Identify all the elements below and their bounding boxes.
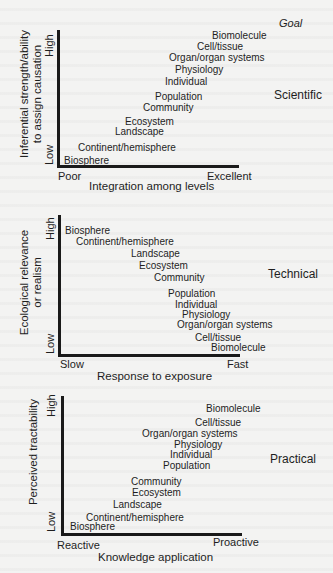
x-axis-title: Integration among levels — [89, 180, 214, 193]
y-axis-title-line1: Perceived tractability — [27, 392, 40, 512]
x-axis-high-label: Fast — [227, 358, 248, 370]
level-label: Biosphere — [65, 225, 110, 236]
level-label: Landscape — [131, 248, 180, 259]
level-label: Community — [131, 476, 182, 487]
level-label: Biomolecule — [211, 342, 265, 353]
level-label: Community — [154, 272, 205, 283]
level-label: Biosphere — [70, 521, 115, 532]
y-axis-title: Ecological relevance or realism — [18, 220, 44, 345]
y-axis-low-label: Low — [43, 145, 55, 165]
y-axis-line — [57, 30, 60, 168]
x-axis-title: Response to exposure — [97, 370, 212, 383]
level-label: Landscape — [115, 126, 164, 137]
goal-label: Scientific — [274, 88, 322, 102]
level-label: Ecosystem — [132, 487, 181, 498]
y-axis-low-label: Low — [44, 334, 56, 354]
level-label: Population — [155, 91, 202, 102]
level-label: Physiology — [175, 64, 223, 75]
y-axis-title-line1: Inferential strength/ability — [18, 30, 31, 158]
x-axis-low-label: Reactive — [57, 539, 100, 551]
level-label: Cell/tissue — [197, 41, 243, 52]
level-label: Organ/organ systems — [177, 319, 273, 330]
y-axis-line — [61, 396, 64, 536]
level-label: Biosphere — [64, 155, 109, 166]
y-axis-low-label: Low — [45, 512, 57, 532]
level-label: Population — [163, 460, 210, 471]
y-axis-line — [58, 215, 61, 357]
level-label: Continent/hemisphere — [76, 236, 174, 247]
x-axis-low-label: Slow — [60, 358, 84, 370]
y-axis-high-label: High — [45, 394, 57, 417]
level-label: Ecosystem — [139, 260, 188, 271]
y-axis-high-label: High — [43, 34, 55, 57]
level-label: Landscape — [113, 499, 162, 510]
x-axis-low-label: Poor — [58, 170, 81, 182]
x-axis-high-label: Proactive — [213, 536, 259, 548]
goal-column-header: Goal — [279, 17, 302, 29]
level-label: Continent/hemisphere — [78, 142, 176, 153]
y-axis-title-line1: Ecological relevance — [18, 220, 31, 345]
level-label: Biomolecule — [212, 30, 266, 41]
y-axis-title: Perceived tractability — [27, 392, 40, 512]
y-axis-high-label: High — [44, 217, 56, 240]
y-axis-title: Inferential strength/ability to assign c… — [18, 30, 44, 158]
level-label: Individual — [170, 449, 212, 460]
level-label: Population — [168, 288, 215, 299]
goal-label: Technical — [268, 267, 318, 281]
level-label: Cell/tissue — [195, 417, 241, 428]
level-label: Community — [143, 102, 194, 113]
level-label: Individual — [165, 76, 207, 87]
level-label: Organ/organ systems — [169, 52, 265, 63]
goal-label: Practical — [270, 452, 316, 466]
level-label: Organ/organ systems — [142, 428, 238, 439]
x-axis-title: Knowledge application — [98, 551, 213, 564]
level-label: Biomolecule — [206, 403, 260, 414]
x-axis-line — [58, 354, 240, 357]
y-axis-title-line2: or realism — [31, 220, 44, 345]
